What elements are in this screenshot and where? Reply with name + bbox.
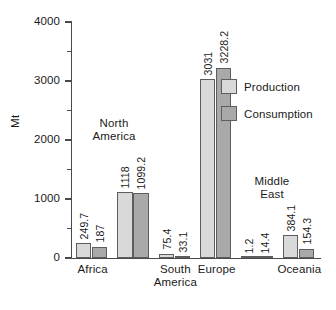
bar-africa-production — [76, 243, 92, 258]
legend-swatch-production-icon — [221, 79, 237, 94]
legend-label-consumption: Consumption — [244, 108, 313, 120]
y-tick-label: 3000 — [20, 75, 60, 87]
annotation-north-america: North America — [79, 117, 149, 143]
bar-south-america-consumption — [175, 256, 191, 258]
bar-oceania-production — [283, 235, 299, 258]
y-tick-minor — [67, 110, 72, 111]
bar-africa-consumption — [92, 247, 108, 258]
bar-value-label: 75.4 — [161, 229, 172, 250]
y-tick-label: 1000 — [20, 193, 60, 205]
bar-value-label: 14.4 — [260, 232, 271, 253]
legend-item-consumption: Consumption — [221, 103, 313, 124]
bar-north-america-consumption — [133, 193, 149, 258]
bar-middle-east-production — [241, 256, 257, 258]
y-tick-major — [65, 139, 72, 140]
y-tick-major — [65, 80, 72, 81]
chart-legend: Production Consumption — [221, 76, 313, 130]
bar-middle-east-consumption — [257, 256, 273, 258]
bar-europe-production — [200, 79, 216, 258]
y-tick-major — [65, 198, 72, 199]
bar-value-label: 249.7 — [78, 213, 89, 240]
y-axis-title: Mt — [9, 115, 21, 128]
legend-item-production: Production — [221, 76, 313, 97]
y-tick-label: 4000 — [20, 16, 60, 28]
annotation-middle-east: Middle East — [237, 175, 307, 201]
x-tick-label: Africa — [53, 263, 133, 276]
bar-value-label: 384.1 — [285, 205, 296, 232]
legend-label-production: Production — [244, 81, 300, 93]
bar-value-label: 187 — [94, 225, 105, 243]
y-tick-major — [65, 257, 72, 258]
y-tick-major — [65, 21, 72, 22]
bar-value-label: 154.3 — [301, 218, 312, 245]
caption-remnant — [6, 300, 330, 308]
bar-value-label: 1.2 — [244, 238, 255, 253]
y-tick-minor — [67, 228, 72, 229]
bar-value-label: 1099.2 — [136, 156, 147, 189]
bar-oceania-consumption — [299, 249, 315, 258]
bar-value-label: 1118 — [120, 166, 131, 188]
bar-north-america-production — [117, 192, 133, 258]
x-tick-label: Oceania — [259, 263, 336, 276]
bar-value-label: 33.1 — [177, 231, 188, 252]
bar-south-america-production — [159, 254, 175, 258]
y-tick-label: 2000 — [20, 134, 60, 146]
x-tick-label: Europe — [177, 263, 257, 276]
y-tick-minor — [67, 169, 72, 170]
bar-value-label: 3228.2 — [218, 31, 229, 64]
bar-value-label: 3031 — [202, 51, 213, 75]
legend-swatch-consumption-icon — [221, 106, 237, 121]
y-tick-minor — [67, 51, 72, 52]
bar-chart: Mt 01000200030004000 249.718711181099.27… — [0, 0, 336, 310]
y-tick-label: 0 — [20, 252, 60, 264]
